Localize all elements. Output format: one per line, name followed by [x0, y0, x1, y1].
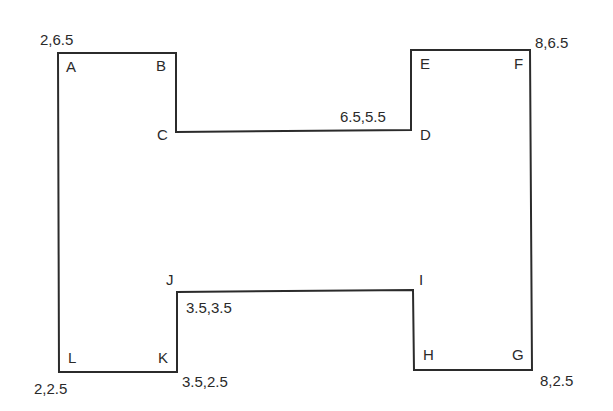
vertex-label-h: H: [423, 347, 434, 362]
coord-label-a: 2,6.5: [40, 32, 73, 47]
vertex-label-g: G: [512, 347, 524, 362]
coord-label-l: 2,2.5: [34, 381, 67, 396]
coord-label-k: 3.5,2.5: [182, 374, 228, 389]
vertex-label-d: D: [420, 127, 431, 142]
vertex-label-l: L: [68, 350, 76, 365]
h-polygon: [58, 50, 532, 372]
vertex-label-k: K: [158, 350, 168, 365]
coord-label-f: 8,6.5: [535, 35, 568, 50]
vertex-label-f: F: [514, 56, 523, 71]
coord-label-j: 3.5,3.5: [186, 300, 232, 315]
vertex-label-e: E: [420, 56, 430, 71]
coord-label-g: 8,2.5: [540, 373, 573, 388]
vertex-label-j: J: [166, 272, 174, 287]
vertex-label-c: C: [157, 127, 168, 142]
vertex-label-b: B: [156, 58, 166, 73]
vertex-label-a: A: [66, 59, 76, 74]
vertex-label-i: I: [419, 272, 423, 287]
coord-label-d: 6.5,5.5: [340, 109, 386, 124]
